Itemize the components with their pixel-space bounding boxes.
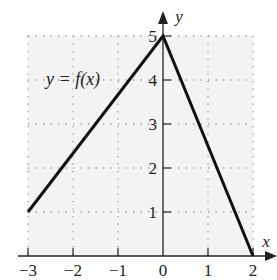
x-tick-label: 1 [204, 261, 213, 280]
x-tick-label: −3 [19, 261, 37, 280]
x-tick-label: 0 [159, 261, 168, 280]
y-tick-label: 1 [149, 203, 158, 222]
x-tick-label: 2 [249, 261, 258, 280]
x-axis-arrow-icon [265, 251, 277, 261]
x-axis-label: x [261, 232, 270, 251]
y-axis-label: y [173, 7, 183, 26]
y-axis-arrow-icon [158, 11, 168, 24]
function-graph: −3−2−101212345xyy = f(x) [0, 0, 277, 280]
y-tick-label: 3 [149, 115, 158, 134]
x-tick-label: −1 [109, 261, 127, 280]
x-tick-label: −2 [64, 261, 82, 280]
function-label: y = f(x) [44, 69, 100, 90]
y-tick-label: 4 [149, 71, 158, 90]
y-tick-label: 2 [149, 159, 158, 178]
